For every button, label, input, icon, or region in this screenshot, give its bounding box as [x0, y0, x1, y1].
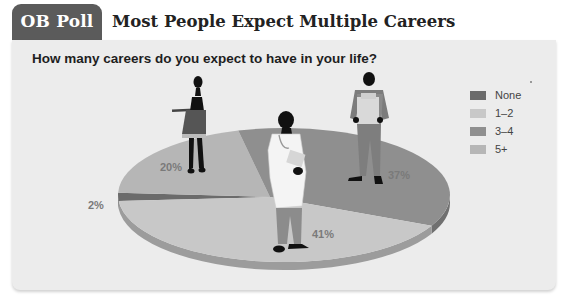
- pct-label-1–2: 41%: [312, 228, 334, 240]
- pct-label-5+: 20%: [160, 161, 182, 173]
- decorative-dot: [530, 81, 532, 83]
- legend-swatch: [470, 109, 486, 118]
- pct-label-3–4: 37%: [388, 169, 410, 181]
- legend-swatch: [470, 145, 486, 154]
- legend-label: 3–4: [495, 125, 513, 137]
- legend-label: 5+: [495, 143, 508, 155]
- legend-item-3-4: 3–4: [470, 122, 521, 140]
- pct-label-None: 2%: [88, 199, 104, 211]
- legend: None 1–2 3–4 5+: [470, 86, 521, 158]
- legend-item-5plus: 5+: [470, 140, 521, 158]
- legend-label: None: [495, 89, 521, 101]
- legend-label: 1–2: [495, 107, 513, 119]
- legend-swatch: [470, 127, 486, 136]
- legend-swatch: [470, 91, 486, 100]
- legend-item-none: None: [470, 86, 521, 104]
- legend-item-1-2: 1–2: [470, 104, 521, 122]
